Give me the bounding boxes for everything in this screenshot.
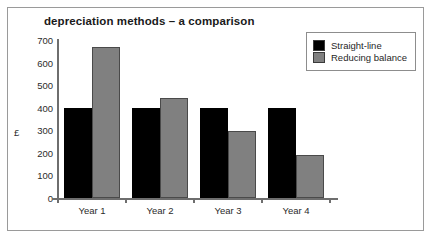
x-axis-category-label: Year 1 <box>78 205 105 216</box>
y-axis-tick-label: 500 <box>37 80 53 91</box>
bar-straight-line <box>64 108 92 198</box>
legend-item-label: Reducing balance <box>331 52 407 63</box>
chart-screenshot: depreciation methods – a comparison £ 70… <box>0 0 431 238</box>
x-axis-tick <box>193 198 195 203</box>
black-swatch-icon <box>313 40 325 51</box>
plot-area <box>58 40 330 198</box>
legend-item: Straight-line <box>313 40 409 51</box>
x-axis-category-label: Year 3 <box>214 205 241 216</box>
x-axis-tick <box>125 198 127 203</box>
x-axis-line <box>52 198 338 200</box>
bar-straight-line <box>268 108 296 198</box>
bar-reducing-balance <box>296 155 324 198</box>
x-axis-category-label: Year 2 <box>146 205 173 216</box>
x-axis-tick <box>57 198 59 203</box>
legend-item: Reducing balance <box>313 52 409 63</box>
legend-item-label: Straight-line <box>331 40 382 51</box>
chart-title: depreciation methods – a comparison <box>44 15 255 27</box>
y-axis-tick-label: 700 <box>37 35 53 46</box>
chart-legend: Straight-line Reducing balance <box>306 32 416 71</box>
bar-reducing-balance <box>228 131 256 198</box>
y-axis-tick-labels: 7006005004003002001000 <box>14 0 53 238</box>
bar-straight-line <box>200 108 228 198</box>
y-axis-tick-label: 200 <box>37 147 53 158</box>
x-axis-tick <box>329 198 331 203</box>
bar-reducing-balance <box>92 47 120 198</box>
x-axis-category-label: Year 4 <box>282 205 309 216</box>
y-axis-tick-label: 100 <box>37 170 53 181</box>
x-axis-tick <box>261 198 263 203</box>
gray-swatch-icon <box>313 52 325 63</box>
y-axis-tick-label: 400 <box>37 102 53 113</box>
y-axis-tick-label: 300 <box>37 125 53 136</box>
bar-straight-line <box>132 108 160 198</box>
y-axis-tick-label: 600 <box>37 57 53 68</box>
bar-reducing-balance <box>160 98 188 198</box>
